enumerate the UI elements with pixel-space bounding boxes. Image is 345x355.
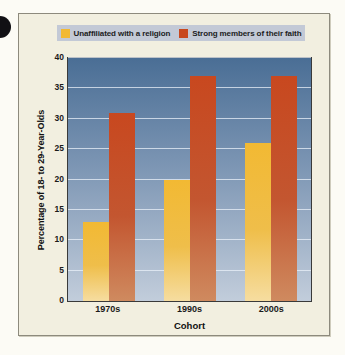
- y-axis-tick-label: 0: [59, 295, 64, 305]
- bar-1990s-strong: [190, 76, 216, 301]
- bar-group: [230, 58, 311, 301]
- legend-entry-strong: Strong members of their faith: [179, 29, 301, 38]
- y-axis-tick-label: 40: [55, 52, 64, 62]
- page-binding-hole-icon: [0, 16, 11, 38]
- y-axis-title: Percentage of 18- to 29-Year-Olds: [34, 57, 48, 302]
- bar-groups: [68, 58, 311, 301]
- y-axis-tick-label: 20: [55, 174, 64, 184]
- y-axis-tick-label: 5: [59, 265, 64, 275]
- legend-swatch-unaffiliated: [61, 29, 70, 38]
- x-axis-tick-label: 1970s: [67, 304, 149, 314]
- bar-group: [149, 58, 230, 301]
- x-axis-tick-label: 2000s: [230, 304, 312, 314]
- y-axis-tick-label: 35: [55, 82, 64, 92]
- y-axis-tick-label: 25: [55, 143, 64, 153]
- plot-area: 0510152025303540: [67, 57, 312, 302]
- legend-entry-unaffiliated: Unaffiliated with a religion: [61, 29, 171, 38]
- x-axis-tick-labels: 1970s1990s2000s: [67, 304, 312, 314]
- x-axis-tick-label: 1990s: [149, 304, 231, 314]
- y-axis-tick-label: 10: [55, 234, 64, 244]
- y-axis-title-text: Percentage of 18- to 29-Year-Olds: [36, 109, 46, 249]
- y-axis-tick-label: 30: [55, 113, 64, 123]
- bar-1970s-strong: [109, 113, 135, 301]
- bar-1990s-unaffiliated: [164, 180, 190, 302]
- bar-2000s-unaffiliated: [245, 143, 271, 301]
- chart-legend: Unaffiliated with a religion Strong memb…: [57, 25, 305, 41]
- legend-label-strong: Strong members of their faith: [192, 29, 301, 38]
- legend-swatch-strong: [179, 29, 188, 38]
- bar-2000s-strong: [271, 76, 297, 301]
- chart-figure-panel: Unaffiliated with a religion Strong memb…: [18, 13, 330, 336]
- y-axis-tick-label: 15: [55, 204, 64, 214]
- page-canvas: Unaffiliated with a religion Strong memb…: [0, 0, 345, 355]
- x-axis-title: Cohort: [67, 320, 312, 331]
- bar-1970s-unaffiliated: [83, 222, 109, 301]
- legend-label-unaffiliated: Unaffiliated with a religion: [74, 29, 171, 38]
- bar-group: [68, 58, 149, 301]
